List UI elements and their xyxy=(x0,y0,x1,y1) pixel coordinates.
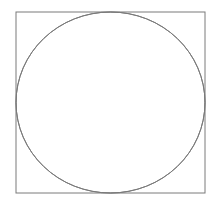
inscribed-circle xyxy=(16,12,205,193)
corner-arcs xyxy=(16,12,205,193)
outer-square xyxy=(16,12,205,193)
arc-top-left xyxy=(16,12,111,103)
geometric-diagram xyxy=(0,0,214,206)
arc-bottom-right xyxy=(111,103,206,194)
arc-bottom-left xyxy=(16,103,111,194)
arc-top-right xyxy=(111,12,206,103)
